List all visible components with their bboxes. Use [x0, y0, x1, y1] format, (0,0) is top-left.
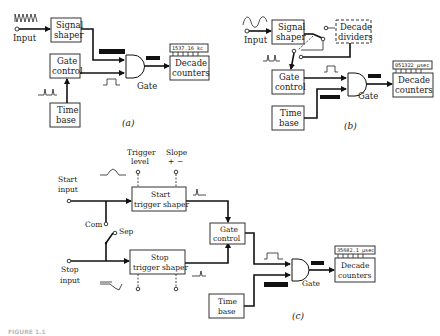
diagram-a: Input Signal shaper Gate control Time ba…: [13, 14, 210, 128]
pulse-train-icon: [264, 282, 288, 287]
frequency-counter-diagrams: Input Signal shaper Gate control Time ba…: [0, 0, 440, 336]
decade-counters-label-1: Decade: [398, 75, 430, 85]
gate-pulse-icon: [103, 79, 120, 85]
gate-control-label-1: Gate: [57, 56, 77, 66]
switch-contact[interactable]: [321, 37, 325, 41]
switch-contact[interactable]: [299, 55, 303, 59]
gate-pulse-icon: [324, 66, 338, 72]
signal-shaper-label-2: shaper: [54, 30, 84, 40]
start-input-label-2: input: [58, 185, 78, 194]
start-input-label-1: Start: [58, 175, 77, 184]
gated-pulses-icon: [146, 56, 160, 60]
signal-shaper-label-1: Signal: [56, 20, 84, 30]
slope-label: Slope: [166, 148, 188, 157]
gate-control-label-1: Gate: [220, 225, 238, 234]
pulse-train-icon: [320, 95, 340, 99]
stop-input-label-2: input: [60, 276, 80, 285]
sep-label: Sep: [119, 227, 134, 236]
gate-control-label-1: Gate: [279, 72, 299, 82]
stop-trigger-shaper-label-2: trigger shaper: [133, 263, 188, 272]
counter-reading: 051322 µsec: [395, 62, 429, 69]
caption-c: (c): [292, 311, 305, 321]
gate-label: Gate: [302, 279, 320, 288]
decade-counters-label-1: Decade: [341, 261, 370, 270]
stop-trigger-shaper-label-1: Stop: [151, 253, 169, 262]
slope-minus-label: −: [177, 157, 183, 166]
decade-counters-label-2: counters: [395, 85, 433, 95]
trigger-level-knob[interactable]: [136, 170, 140, 174]
stop-spike-icon: [192, 271, 206, 276]
sine-burst-icon: [15, 14, 37, 22]
gate-pulse-icon: [264, 253, 283, 259]
time-base-label-2: base: [218, 307, 236, 316]
time-base-label-1: Time: [57, 105, 78, 115]
trigger-level-label-2: level: [131, 157, 150, 166]
input-terminal[interactable]: [15, 27, 19, 31]
com-label: Com: [85, 220, 102, 229]
caption-b: (b): [344, 121, 357, 131]
start-input-terminal[interactable]: [67, 199, 71, 203]
decade-counters-label-2: counters: [172, 68, 210, 78]
sine-wave-icon: [243, 17, 267, 28]
decade-dividers-label-1: Decade: [340, 22, 372, 32]
decade-counters-label-1: Decade: [175, 58, 207, 68]
input-terminal[interactable]: [245, 29, 249, 33]
sep-terminal[interactable]: [113, 231, 117, 235]
decade-counters-label-2: counters: [338, 271, 371, 280]
falling-wave-icon: [100, 282, 122, 290]
switch-contact[interactable]: [292, 49, 296, 53]
and-gate-symbol: [126, 55, 144, 78]
gate-control-label-2: control: [275, 82, 306, 92]
gate-control-label-2: control: [52, 66, 83, 76]
gate-label: Gate: [358, 91, 378, 101]
trapezoid-wave-icon: [100, 169, 126, 175]
stop-input-label-1: Stop: [61, 265, 79, 274]
gated-pulses-icon: [368, 74, 381, 78]
start-trigger-shaper-label-2: trigger shaper: [134, 200, 189, 209]
time-base-label-2: base: [279, 118, 299, 128]
figure-caption: FIGURE 1.1: [8, 328, 46, 335]
trigger-level-label-1: Trigger: [127, 148, 156, 157]
slope-switch[interactable]: [174, 170, 178, 174]
slope-plus-label: +: [168, 157, 174, 166]
decade-dividers-label-2: dividers: [338, 32, 373, 42]
time-base-label-1: Time: [218, 297, 238, 306]
spike-icon: [263, 55, 280, 61]
gated-pulses-icon: [311, 261, 324, 265]
start-spike-icon: [193, 189, 206, 195]
signal-shaper-label-2: shaper: [276, 32, 306, 42]
gate-control-label-2: control: [213, 234, 241, 243]
start-trigger-shaper-label-1: Start: [151, 190, 170, 199]
diagram-b: Input Signal shaper Decade dividers Gate…: [243, 17, 433, 131]
counter-reading: 1537.16 kc: [172, 45, 203, 51]
counter-reading: 35682.1 µsec: [337, 247, 374, 254]
gate-label: Gate: [137, 81, 157, 91]
caption-a: (a): [122, 118, 135, 128]
time-base-label-2: base: [56, 115, 76, 125]
pulse-train-icon: [99, 49, 125, 54]
stop-slope-switch[interactable]: [174, 287, 178, 291]
diagram-c: Trigger level Slope + − Start input Com …: [58, 148, 375, 321]
switch-contact[interactable]: [324, 26, 328, 30]
signal-shaper-label-1: Signal: [278, 22, 306, 32]
time-base-spike-icon: [38, 89, 57, 95]
input-label: Input: [13, 33, 37, 43]
com-terminal[interactable]: [104, 222, 108, 226]
stop-trigger-level-knob[interactable]: [136, 287, 140, 291]
and-gate-symbol: [292, 259, 309, 281]
time-base-label-1: Time: [280, 108, 301, 118]
input-label: Input: [244, 35, 268, 45]
stop-input-terminal[interactable]: [67, 259, 71, 263]
